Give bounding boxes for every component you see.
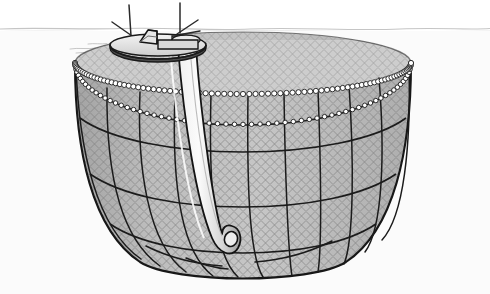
float-bead	[247, 91, 252, 96]
float-bead	[272, 91, 277, 96]
float-bead	[222, 91, 227, 96]
float-bead	[167, 116, 172, 121]
float-bead	[259, 91, 264, 96]
float-bead	[322, 114, 327, 119]
float-bead	[379, 96, 384, 101]
float-bead	[307, 117, 312, 122]
float-bead	[209, 91, 214, 96]
float-bead	[344, 109, 349, 114]
float-bead	[156, 87, 161, 92]
float-bead	[253, 91, 258, 96]
float-bead	[207, 121, 212, 126]
float-bead	[136, 85, 141, 90]
float-bead	[368, 101, 373, 106]
float-bead	[357, 105, 362, 110]
float-bead	[315, 116, 320, 121]
float-bead	[240, 91, 245, 96]
float-bead	[131, 107, 136, 112]
illustration-canvas: Aquaculture net pen with service vessel	[0, 0, 490, 294]
float-bead	[374, 98, 379, 103]
float-bead	[383, 93, 388, 98]
float-bead	[151, 87, 156, 92]
float-bead	[278, 91, 283, 96]
float-bead	[168, 88, 173, 93]
float-bead	[119, 103, 124, 108]
float-bead	[265, 91, 270, 96]
float-bead	[141, 85, 146, 90]
float-bead	[138, 109, 143, 114]
net-pen-drawing	[0, 0, 490, 294]
float-bead	[313, 88, 318, 93]
float-bead	[330, 113, 335, 118]
float-bead	[203, 91, 208, 96]
float-bead	[145, 111, 150, 116]
float-bead	[408, 60, 413, 65]
float-bead	[319, 88, 324, 93]
float-bead	[103, 96, 108, 101]
float-bead	[159, 114, 164, 119]
float-bead	[330, 87, 335, 92]
float-bead	[290, 90, 295, 95]
float-bead	[296, 90, 301, 95]
float-bead	[131, 84, 136, 89]
float-bead	[340, 85, 345, 90]
float-bead	[284, 90, 289, 95]
float-bead	[299, 118, 304, 123]
float-bead	[98, 93, 103, 98]
float-bead	[283, 120, 288, 125]
float-bead	[291, 119, 296, 124]
float-bead	[234, 91, 239, 96]
float-bead	[108, 98, 113, 103]
float-bead	[228, 91, 233, 96]
pipe-deck-collar	[158, 40, 198, 49]
float-bead	[308, 89, 313, 94]
float-bead	[146, 86, 151, 91]
float-bead	[215, 121, 220, 126]
float-bead	[266, 121, 271, 126]
float-bead	[113, 101, 118, 106]
float-bead	[363, 103, 368, 108]
float-bead	[337, 111, 342, 116]
float-bead	[215, 91, 220, 96]
float-bead	[302, 89, 307, 94]
float-bead	[224, 122, 229, 127]
float-bead	[152, 113, 157, 118]
float-bead	[241, 122, 246, 127]
float-bead	[345, 85, 350, 90]
float-bead	[258, 122, 263, 127]
float-bead	[94, 91, 99, 96]
float-bead	[162, 88, 167, 93]
float-bead	[324, 87, 329, 92]
float-bead	[249, 122, 254, 127]
float-bead	[232, 122, 237, 127]
float-bead	[335, 86, 340, 91]
float-bead	[350, 107, 355, 112]
float-bead	[125, 105, 130, 110]
float-bead	[275, 121, 280, 126]
